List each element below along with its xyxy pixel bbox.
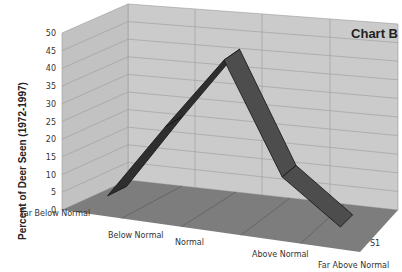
y-tick-label: 20 xyxy=(46,135,56,144)
y-tick-label: 25 xyxy=(46,118,56,127)
y-tick-label: 40 xyxy=(46,64,56,73)
y-axis-label: Percent of Deer Seen (1972-1997) xyxy=(17,82,28,240)
x-category-label: Normal xyxy=(175,238,204,247)
chart-container: 05101520253035404550 Far Below NormalBel… xyxy=(0,0,402,272)
series-label: S1 xyxy=(370,239,380,248)
y-tick-label: 50 xyxy=(46,29,56,38)
chart-canvas: 05101520253035404550 Far Below NormalBel… xyxy=(0,0,402,272)
y-tick-label: 10 xyxy=(46,171,56,180)
y-tick-label: 45 xyxy=(46,47,56,56)
y-tick-label: 15 xyxy=(46,153,56,162)
chart-title: Chart B xyxy=(351,26,398,41)
x-category-label: Far Below Normal xyxy=(20,209,90,218)
x-category-label: Above Normal xyxy=(252,250,309,259)
y-tick-label: 5 xyxy=(51,188,56,197)
y-tick-label: 35 xyxy=(46,82,56,91)
x-category-label: Far Above Normal xyxy=(318,261,389,270)
y-axis-ticks: 05101520253035404550 xyxy=(46,29,56,215)
y-tick-label: 30 xyxy=(46,100,56,109)
x-category-label: Below Normal xyxy=(108,231,164,240)
